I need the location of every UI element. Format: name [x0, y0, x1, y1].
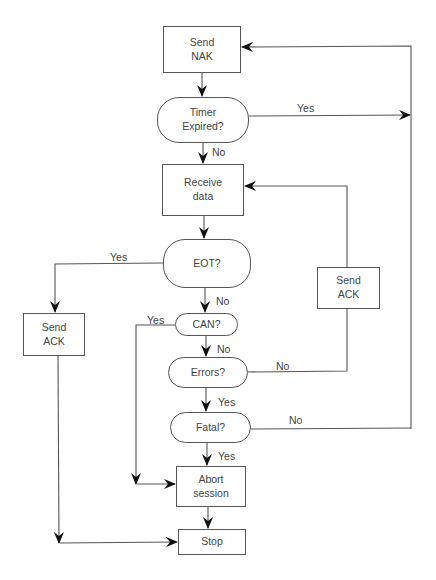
node-send-ack-left: Send ACK — [23, 313, 85, 356]
edge-fatal-no — [251, 428, 411, 429]
node-eot: EOT? — [163, 239, 251, 288]
label-timer-yes: Yes — [297, 102, 314, 114]
label-can-yes: Yes — [147, 314, 164, 326]
label-eot-yes: Yes — [110, 251, 127, 263]
node-receive-data: Receive data — [162, 164, 244, 216]
edge-timer-yes — [249, 115, 410, 116]
node-send-nak: Send NAK — [163, 26, 241, 73]
node-send-ack-right: Send ACK — [317, 267, 380, 309]
node-errors: Errors? — [168, 357, 248, 388]
edge-eot-yes — [55, 263, 163, 312]
node-stop: Stop — [178, 529, 246, 555]
edge-ack-left-to-stop — [60, 542, 177, 543]
edge-errors-no — [248, 309, 347, 372]
node-abort-session: Abort session — [176, 466, 246, 507]
label-eot-no: No — [216, 295, 229, 307]
label-errors-yes: Yes — [218, 396, 235, 408]
label-can-no: No — [217, 343, 230, 355]
node-timer-expired: Timer Expired? — [157, 97, 249, 143]
label-fatal-yes: Yes — [218, 450, 235, 462]
label-timer-no: No — [212, 146, 225, 158]
edge-ack-left-down — [58, 356, 59, 543]
node-fatal: Fatal? — [170, 412, 251, 443]
edge-ack-to-receive — [245, 186, 347, 267]
edge-can-yes — [136, 325, 175, 484]
node-can: CAN? — [175, 313, 238, 336]
label-errors-no: No — [276, 360, 289, 372]
label-fatal-no: No — [289, 414, 302, 426]
